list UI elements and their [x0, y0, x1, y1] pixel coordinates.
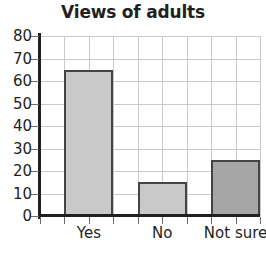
y-axis-label-60: 60 — [0, 74, 32, 89]
chart-title: Views of adults — [0, 2, 266, 22]
x-tick-3 — [113, 217, 114, 224]
x-tick-6 — [187, 217, 188, 224]
y-tick-40 — [31, 126, 39, 127]
y-axis-label-50: 50 — [0, 97, 32, 112]
x-tick-9 — [260, 217, 261, 224]
bar-yes — [64, 70, 113, 216]
y-axis-label-30: 30 — [0, 142, 32, 157]
y-tick-60 — [31, 81, 39, 82]
y-tick-50 — [31, 104, 39, 105]
plot-area — [40, 36, 260, 216]
gridline-h-80 — [40, 36, 260, 37]
y-axis-label-70: 70 — [0, 52, 32, 67]
x-axis-label-not-sure: Not sure — [186, 226, 266, 241]
y-tick-10 — [31, 194, 39, 195]
gridline-v-3 — [113, 36, 114, 216]
y-tick-20 — [31, 171, 39, 172]
y-tick-30 — [31, 149, 39, 150]
bar-not-sure — [211, 160, 260, 216]
x-axis-line — [38, 214, 260, 217]
x-tick-1 — [64, 217, 65, 224]
bar-chart: Views of adults 01020304050607080 YesNoN… — [0, 0, 266, 257]
y-tick-80 — [31, 36, 39, 37]
y-axis-label-20: 20 — [0, 164, 32, 179]
y-tick-70 — [31, 59, 39, 60]
y-axis-label-10: 10 — [0, 187, 32, 202]
gridline-v-9 — [260, 36, 261, 216]
bar-no — [138, 182, 187, 216]
y-tick-0 — [31, 216, 39, 217]
x-tick-5 — [162, 217, 163, 224]
y-axis-label-40: 40 — [0, 119, 32, 134]
y-axis-label-0: 0 — [0, 209, 32, 224]
gridline-h-70 — [40, 59, 260, 60]
x-tick-0 — [40, 217, 41, 224]
x-tick-4 — [138, 217, 139, 224]
x-tick-2 — [89, 217, 90, 224]
x-tick-7 — [211, 217, 212, 224]
gridline-v-6 — [187, 36, 188, 216]
y-axis-label-80: 80 — [0, 29, 32, 44]
x-tick-8 — [236, 217, 237, 224]
